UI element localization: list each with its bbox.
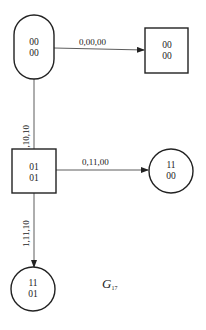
edge-label: 0,11,00 [82,157,109,167]
svg-text:00: 00 [29,37,39,47]
svg-text:00: 00 [166,171,176,181]
edge-label: 1,11,10 [21,220,31,247]
state-s3: 11 00 [149,149,193,193]
svg-text:00: 00 [162,40,172,50]
edge-label: 0,00,00 [79,37,107,47]
edge-label: 1,10,10 [21,125,31,153]
svg-text:01: 01 [28,289,38,299]
svg-text:00: 00 [162,51,172,61]
svg-text:11: 11 [166,160,175,170]
state-s0: 00 00 [14,15,54,79]
state-s4: 11 01 [11,267,55,311]
svg-text:01: 01 [29,162,39,172]
edge-s0-s1: 0,00,00 [54,37,144,50]
svg-text:01: 01 [29,173,39,183]
diagram-title: G17 [102,276,117,291]
edge-s2-s4: 1,11,10 [21,193,34,267]
svg-text:00: 00 [29,48,39,58]
state-s2: 01 01 [12,149,56,193]
edge-s2-s3: 0,11,00 [56,157,148,170]
svg-text:11: 11 [28,278,37,288]
state-s1: 00 00 [145,28,188,73]
state-diagram: 0,00,00 1,10,10 0,11,00 1,11,10 00 00 00… [0,0,206,330]
